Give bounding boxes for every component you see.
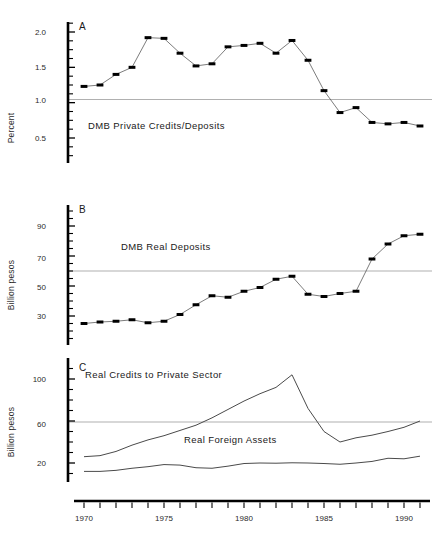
panel-a-ytick-1_5: 1.5 <box>35 63 47 72</box>
panel-a-ytick-0_5: 0.5 <box>35 134 47 143</box>
x-axis-label-1980: 1980 <box>235 514 253 523</box>
panel-b-ytick-30: 30 <box>37 312 46 321</box>
panel-c-series-label-foreign: Real Foreign Assets <box>184 434 277 445</box>
panel-b-letter: B <box>79 204 86 215</box>
panel-b-ytick-70: 70 <box>37 254 46 263</box>
figure-background <box>0 0 436 536</box>
panel-c-ylabel: Billion pesos <box>6 407 16 457</box>
panel-b-ytick-50: 50 <box>37 283 46 292</box>
panel-c-series-label-credits: Real Credits to Private Sector <box>85 369 222 380</box>
panel-a-series-label: DMB Private Credits/Deposits <box>88 120 225 131</box>
x-axis-label-1985: 1985 <box>315 514 333 523</box>
x-axis-label-1970: 1970 <box>75 514 93 523</box>
panel-c-ytick-100: 100 <box>33 375 47 384</box>
x-axis-label-1975: 1975 <box>155 514 173 523</box>
panel-c-ytick-60: 60 <box>37 420 46 429</box>
economic-indicators-figure: Percent A 2.0 1.5 1.0 0.5 DMB Private Cr… <box>0 0 436 536</box>
panel-b-ytick-90: 90 <box>37 222 46 231</box>
panel-b-ylabel: Billion pesos <box>6 260 16 310</box>
panel-a-ylabel: Percent <box>6 112 16 143</box>
panel-a-ytick-2: 2.0 <box>35 28 47 37</box>
panel-a-letter: A <box>79 21 86 32</box>
panel-a-ytick-1: 1.0 <box>35 96 47 105</box>
x-axis-label-1990: 1990 <box>395 514 413 523</box>
panel-b-series-label: DMB Real Deposits <box>121 241 211 252</box>
panel-c-ytick-20: 20 <box>37 459 46 468</box>
